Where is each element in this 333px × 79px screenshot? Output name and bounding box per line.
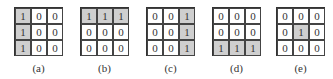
- matrix-cell: 0: [97, 24, 113, 40]
- matrix-cell: 1: [179, 8, 195, 24]
- matrix-grid: 001001001: [146, 7, 195, 56]
- matrix-cell: 0: [229, 8, 245, 24]
- panel-label: (a): [14, 62, 63, 74]
- matrix-cell: 0: [163, 8, 179, 24]
- matrix-cell: 0: [147, 8, 163, 24]
- matrix-cell: 1: [81, 8, 97, 24]
- matrix-cell: 0: [47, 8, 63, 24]
- matrix-cell: 0: [163, 40, 179, 56]
- matrix-cell: 1: [179, 24, 195, 40]
- matrix-cell: 1: [229, 40, 245, 56]
- panel-a: 100100100(a): [14, 7, 62, 56]
- matrix-cell: 0: [31, 8, 47, 24]
- panel-e: 000010000(e): [276, 7, 324, 56]
- matrix-grid: 100100100: [14, 7, 63, 56]
- panel-label: (d): [212, 62, 261, 74]
- panel-b: 111000000(b): [80, 7, 128, 56]
- matrix-cell: 0: [147, 40, 163, 56]
- matrix-cell: 0: [97, 40, 113, 56]
- matrix-cell: 0: [229, 24, 245, 40]
- panel-d: 000000111(d): [212, 7, 260, 56]
- panel-label: (b): [80, 62, 129, 74]
- matrix-grid: 000000111: [212, 7, 261, 56]
- matrix-cell: 0: [47, 24, 63, 40]
- matrix-cell: 0: [147, 24, 163, 40]
- matrix-cell: 0: [113, 40, 129, 56]
- matrix-cell: 0: [277, 8, 293, 24]
- matrix-cell: 0: [163, 24, 179, 40]
- matrix-cell: 0: [293, 40, 309, 56]
- panel-c: 001001001(c): [146, 7, 194, 56]
- matrix-cell: 1: [293, 24, 309, 40]
- matrix-cell: 1: [97, 8, 113, 24]
- matrix-cell: 0: [309, 40, 325, 56]
- matrix-cell: 1: [213, 40, 229, 56]
- matrix-cell: 0: [81, 40, 97, 56]
- matrix-cell: 1: [113, 8, 129, 24]
- matrix-cell: 1: [15, 8, 31, 24]
- matrix-cell: 0: [309, 8, 325, 24]
- matrix-cell: 0: [245, 24, 261, 40]
- matrix-cell: 0: [81, 24, 97, 40]
- matrix-cell: 0: [213, 8, 229, 24]
- matrix-cell: 0: [47, 40, 63, 56]
- matrix-grid: 111000000: [80, 7, 129, 56]
- matrix-cell: 1: [15, 40, 31, 56]
- matrix-cell: 0: [245, 8, 261, 24]
- matrix-cell: 0: [277, 40, 293, 56]
- matrix-cell: 1: [15, 24, 31, 40]
- panel-label: (c): [146, 62, 195, 74]
- matrix-grid: 000010000: [276, 7, 325, 56]
- matrix-cell: 0: [31, 24, 47, 40]
- matrix-cell: 0: [309, 24, 325, 40]
- panel-label: (e): [276, 62, 325, 74]
- matrix-cell: 0: [31, 40, 47, 56]
- matrix-cell: 0: [213, 24, 229, 40]
- matrix-cell: 0: [113, 24, 129, 40]
- matrix-cell: 1: [179, 40, 195, 56]
- matrix-cell: 0: [277, 24, 293, 40]
- matrix-cell: 1: [245, 40, 261, 56]
- matrix-cell: 0: [293, 8, 309, 24]
